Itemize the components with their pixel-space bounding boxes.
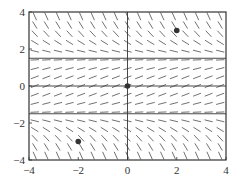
slope-segment [183,31,189,37]
slope-segment [31,50,39,52]
slope-segment [67,143,71,150]
y-tick-label: −2 [13,117,25,129]
slope-segment [170,120,178,122]
slope-segment [79,21,83,28]
slope-segment [33,13,36,21]
slope-segment [65,102,73,104]
slope-segment [32,31,38,37]
slope-segment [66,127,73,131]
slope-segment [136,31,142,37]
slope-segment [207,13,210,21]
slope-segment [182,93,190,96]
slope-segment [218,143,222,150]
slope-segment [158,120,166,122]
slope-segment [181,68,189,70]
slope-segment [77,76,85,79]
slope-segment [218,13,221,21]
slope-segment [206,31,212,37]
x-tick-label: −2 [72,164,84,176]
slope-segment [44,135,50,141]
slope-segment [54,120,62,122]
slope-segment [112,127,119,131]
slope-segment [172,21,176,28]
slope-segment [54,93,62,96]
slope-segment [135,120,143,122]
slope-segment [100,68,108,70]
slope-segment [217,40,224,44]
slope-segment [193,68,201,70]
slope-segment [42,50,50,52]
slope-segment [172,143,176,150]
slope-segment [100,93,108,96]
slope-segment [159,127,166,131]
slope-segment [135,68,143,70]
slope-segment [205,127,212,131]
slope-segment [170,76,178,79]
slope-segment [137,143,141,150]
slope-segment [170,127,177,131]
slope-segment [89,50,97,52]
slope-segment [31,93,39,96]
slope-segment [205,102,213,104]
y-tick-label: 0 [20,80,26,92]
slope-field-chart: −4−2024 420−2−4 [0,0,241,181]
slope-segment [44,21,48,28]
slope-segment [78,40,85,44]
slope-segment [181,50,189,52]
slope-segment [217,127,224,131]
y-tick-label: 4 [20,6,26,18]
slope-segment [77,50,85,52]
slope-segment [172,152,175,160]
slope-segment [183,143,187,150]
slope-segment [136,127,143,131]
slope-segment [91,13,94,21]
slope-segment [89,40,96,44]
slope-segment [206,135,212,141]
slope-segment [102,143,106,150]
slope-segment [217,31,223,37]
slope-segment [67,135,73,141]
slope-segment [42,93,50,96]
slope-segment [158,68,166,70]
slope-segment [160,143,164,150]
slope-segment [161,13,164,21]
slope-segment [194,31,200,37]
slope-segment [195,13,198,21]
slope-segment [65,120,73,122]
slope-segment [55,135,61,141]
slope-segment [42,120,50,122]
slope-segment [31,68,39,70]
slope-segment [102,21,106,28]
slope-segment [216,50,224,52]
slope-segment [54,102,62,104]
slope-segment [159,40,166,44]
slope-segment [147,127,154,131]
slope-segment [89,93,97,96]
slope-segment [91,143,95,150]
slope-segment [193,127,200,131]
slope-segment [193,76,201,79]
slope-segment [56,143,60,150]
slope-segment [135,76,143,79]
slope-segment [158,93,166,96]
slope-segment [148,31,154,37]
slope-segment [90,31,96,37]
slope-segment [112,50,120,52]
slope-segment [68,13,71,21]
slope-segment [216,68,224,70]
slope-segment [54,76,62,79]
slope-segment [68,152,71,160]
slope-segment [193,102,201,104]
slope-segment [206,143,210,150]
slope-segment [147,76,155,79]
slope-segment [216,76,224,79]
slope-segment [194,135,200,141]
slope-segment [31,40,38,44]
slope-segment [103,13,106,21]
slope-segment [183,135,189,141]
slope-segment [114,13,117,21]
slope-segment [56,13,59,21]
slope-segment [193,40,200,44]
slope-segment [218,21,222,28]
slope-segment [137,13,140,21]
